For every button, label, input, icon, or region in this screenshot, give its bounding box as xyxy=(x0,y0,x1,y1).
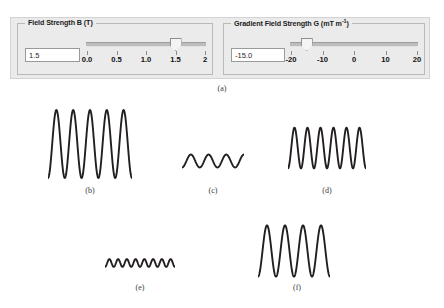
gradient-field-strength-slider-thumb[interactable] xyxy=(301,38,313,51)
gradient-field-strength-slider[interactable]: -20-1001020 xyxy=(290,36,418,62)
waveform-path xyxy=(48,110,132,178)
field-strength-input[interactable]: 1.5 xyxy=(25,48,80,62)
gradient-field-strength-tick-labels: -20-1001020 xyxy=(290,55,418,66)
field-strength-group: Field Strength B (T) 1.5 0.00.51.01.52 xyxy=(17,23,213,75)
field-strength-slider[interactable]: 0.00.51.01.52 xyxy=(86,36,206,62)
waveform-path xyxy=(105,259,175,267)
slider-tick-label: 10 xyxy=(381,55,389,64)
waveform-d xyxy=(288,117,366,179)
caption-e: (e) xyxy=(136,283,145,292)
caption-d: (d) xyxy=(322,186,331,195)
gradient-field-strength-title: Gradient Field Strength G (mT m-1) xyxy=(231,18,352,28)
waveform-path xyxy=(182,155,244,168)
caption-c: (c) xyxy=(209,186,218,195)
field-strength-title: Field Strength B (T) xyxy=(25,18,96,27)
field-strength-tick-labels: 0.00.51.01.52 xyxy=(86,55,206,66)
slider-tick-label: 0.0 xyxy=(82,55,93,64)
slider-tick-label: 0 xyxy=(352,55,356,64)
slider-tick-label: 1.5 xyxy=(170,55,181,64)
gradient-field-strength-group: Gradient Field Strength G (mT m-1) -15.0… xyxy=(223,23,425,75)
slider-tick-label: 1.0 xyxy=(141,55,152,64)
waveform-path xyxy=(258,225,330,276)
waveform-c xyxy=(182,140,244,182)
waveform-e xyxy=(105,248,175,278)
slider-tick-label: 2 xyxy=(203,55,207,64)
gradient-field-strength-input[interactable]: -15.0 xyxy=(231,48,285,62)
caption-a: (a) xyxy=(218,84,227,93)
slider-tick-label: 0.5 xyxy=(111,55,122,64)
slider-tick-label: -20 xyxy=(286,55,297,64)
waveform-path xyxy=(288,128,366,169)
caption-f: (f) xyxy=(293,283,301,292)
gradient-title-suffix: ) xyxy=(347,19,349,28)
field-strength-slider-thumb[interactable] xyxy=(170,38,182,51)
slider-tick-label: -10 xyxy=(317,55,328,64)
controls-panel: Field Strength B (T) 1.5 0.00.51.01.52 G… xyxy=(10,17,430,79)
gradient-title-prefix: Gradient Field Strength G (mT m xyxy=(234,19,342,28)
caption-b: (b) xyxy=(85,186,94,195)
slider-tick-label: 20 xyxy=(413,55,421,64)
waveform-f xyxy=(258,222,330,280)
field-strength-slider-track[interactable] xyxy=(86,42,206,47)
waveform-b xyxy=(48,108,132,180)
